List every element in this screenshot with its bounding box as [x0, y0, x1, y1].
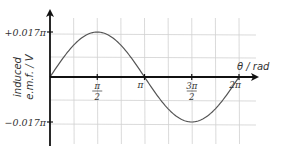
grid-line-vertical [168, 18, 169, 144]
y-tick-label: −0.017π [5, 117, 47, 128]
x-tick-label-denominator: 2 [94, 92, 100, 102]
y-tick-label: +0.017π [5, 27, 47, 38]
x-tick-label: π [137, 80, 145, 90]
y-axis-label: induced e.m.f. / V [12, 53, 35, 100]
x-axis-label: θ / rad [237, 61, 270, 72]
axes [46, 9, 259, 146]
x-tick-label: 2π [228, 80, 242, 90]
svg-text:e.m.f. / V: e.m.f. / V [24, 53, 35, 100]
svg-text:induced: induced [12, 56, 23, 96]
grid-line-horizontal [50, 34, 256, 35]
grid-line-horizontal [50, 100, 256, 101]
x-tick-label-denominator: 2 [188, 92, 194, 102]
grid-line-vertical [145, 18, 146, 144]
grid-line-horizontal [50, 124, 256, 125]
x-tick-label-numerator: 3π [186, 81, 197, 91]
grid-line-vertical [74, 18, 75, 144]
grid-line-horizontal [50, 57, 256, 58]
x-tick-label-numerator: π [93, 81, 100, 91]
grid-line-vertical [121, 18, 122, 144]
emf-sine-chart: π2π3π22π+0.017π−0.017π θ / rad induced e… [0, 0, 284, 146]
grid [50, 18, 256, 144]
